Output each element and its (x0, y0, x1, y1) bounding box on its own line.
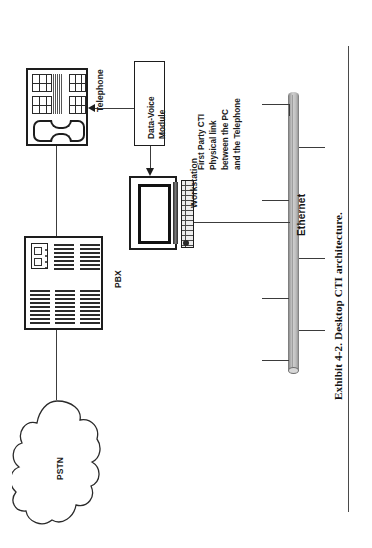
first-party-cti-note-line2: Physical link (209, 120, 218, 170)
ethernet-label: Ethernet (296, 194, 307, 236)
telephone-icon (26, 68, 88, 146)
keypad-block-2 (32, 96, 52, 114)
workstation-icon (129, 176, 177, 250)
link-module-to-telephone-arrowhead (88, 104, 95, 112)
ethernet-tap-6 (262, 298, 289, 299)
first-party-cti-note-line3: between the PC (221, 109, 230, 170)
ethernet-tap-3 (299, 330, 325, 331)
first-party-cti-note-line1: First Party CTI (197, 114, 206, 170)
monitor-screen (138, 184, 171, 244)
pbx-panel-3 (30, 290, 50, 325)
telephone-handset (33, 120, 85, 142)
ethernet-tap-4 (262, 104, 289, 105)
link-module-to-workstation-arrowhead (146, 168, 154, 176)
data-voice-module-label-line1: Data-Voice (146, 96, 156, 139)
link-module-to-workstation (150, 146, 151, 170)
mouse-icon (183, 240, 189, 246)
link-pbx-to-pstn (56, 330, 57, 400)
ethernet-tap-7 (262, 360, 289, 361)
monitor-bezel (129, 176, 177, 250)
data-voice-module-label-line2: Module (157, 110, 167, 139)
pstn-label: PSTN (56, 457, 66, 480)
link-workstation-to-ethernet (190, 222, 290, 223)
ethernet-tap-4-drop (289, 104, 290, 116)
keypad-block-4 (69, 96, 86, 114)
pbx-panel-4 (55, 290, 75, 325)
ethernet-bus-highlight (292, 95, 293, 370)
figure-canvas: Ethernet (0, 0, 372, 548)
keypad-block-1 (32, 74, 52, 92)
monitor-stand (173, 182, 178, 244)
keypad-block-3 (69, 74, 86, 92)
page-divider-rule (348, 46, 349, 512)
telephone-label: Telephone (96, 69, 106, 112)
first-party-cti-note: First Party CTI Physical link between th… (196, 98, 244, 170)
pbx-panel-1 (54, 244, 74, 271)
figure-caption: Exhibit 4-2. Desktop CTI architecture. (332, 212, 345, 400)
ethernet-tap-5 (262, 200, 289, 201)
link-telephone-to-pbx (56, 146, 57, 236)
first-party-cti-note-line4: and the Telephone (233, 98, 242, 170)
ethernet-tap-2 (299, 258, 325, 259)
ethernet-bus-end-cap (288, 367, 299, 374)
data-voice-module-label: Data-Voice Module (146, 96, 168, 139)
pbx-panel-5 (80, 290, 100, 325)
ethernet-tap-1 (299, 147, 325, 148)
pbx-label: PBX (114, 270, 124, 288)
telephone-feature-bars (53, 74, 62, 114)
pbx-control-panel (31, 243, 48, 269)
pbx-icon (24, 236, 103, 330)
pbx-panel-2 (80, 244, 100, 271)
